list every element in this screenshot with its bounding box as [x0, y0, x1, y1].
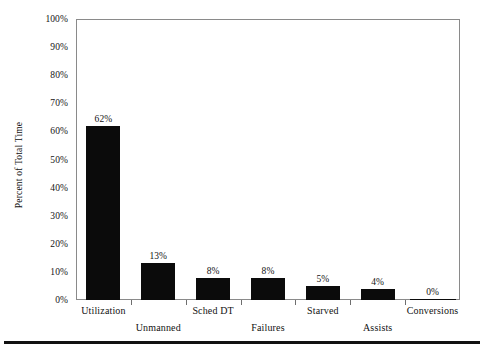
bar-slot: 13%: [141, 19, 175, 300]
figure-bottom-rule: [4, 341, 480, 344]
bar[interactable]: [141, 263, 175, 300]
y-tick-label: 60%: [0, 126, 68, 136]
y-tick-mark: [76, 300, 81, 301]
bar-slot: 4%: [361, 19, 395, 300]
bar[interactable]: [251, 278, 285, 300]
x-tick-mark: [350, 300, 351, 305]
y-tick-label: 40%: [0, 183, 68, 193]
bar-slot: 62%: [86, 19, 120, 300]
x-tick-mark: [241, 300, 242, 305]
y-tick-label: 80%: [0, 70, 68, 80]
bar-slot: 5%: [306, 19, 340, 300]
y-tick-label: 20%: [0, 239, 68, 249]
bar-slot: 0%: [416, 19, 450, 300]
x-axis-label: Assists: [363, 322, 392, 333]
bar-value-label: 4%: [371, 277, 384, 287]
bar[interactable]: [306, 286, 340, 300]
bar-value-label: 8%: [262, 266, 275, 276]
bar-value-label: 62%: [95, 114, 113, 124]
bar[interactable]: [410, 299, 456, 301]
bar-chart-figure: Percent of Total Time 0%10%20%30%40%50%6…: [0, 0, 484, 348]
bar-slot: 8%: [251, 19, 285, 300]
bar-value-label: 13%: [149, 251, 167, 261]
x-tick-mark: [131, 300, 132, 305]
x-axis-label: Utilization: [81, 305, 125, 316]
x-axis-label: Starved: [307, 305, 339, 316]
bar-slot: 8%: [196, 19, 230, 300]
y-tick-label: 50%: [0, 155, 68, 165]
y-tick-label: 90%: [0, 42, 68, 52]
bar[interactable]: [86, 126, 120, 300]
bar-value-label: 0%: [426, 287, 439, 297]
bar-value-label: 5%: [316, 274, 329, 284]
x-axis-label: Failures: [251, 322, 284, 333]
bar[interactable]: [196, 278, 230, 300]
bars-container: 62%13%8%8%5%4%0%: [76, 19, 460, 300]
x-axis-label: Sched DT: [192, 305, 233, 316]
x-tick-mark: [295, 300, 296, 305]
bar[interactable]: [361, 289, 395, 300]
x-axis-label: Unmanned: [136, 322, 181, 333]
x-tick-mark: [186, 300, 187, 305]
y-tick-label: 30%: [0, 211, 68, 221]
y-tick-label: 70%: [0, 98, 68, 108]
y-tick-label: 0%: [0, 295, 68, 305]
y-tick-label: 100%: [0, 14, 68, 24]
bar-value-label: 8%: [207, 266, 220, 276]
y-tick-label: 10%: [0, 267, 68, 277]
x-axis-label: Conversions: [407, 305, 459, 316]
